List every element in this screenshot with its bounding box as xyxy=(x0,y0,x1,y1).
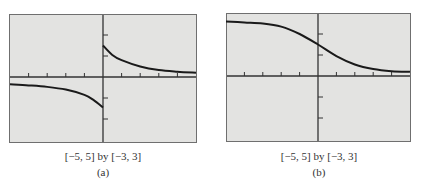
window-caption-b: [−5, 5] by [−3, 3] xyxy=(219,150,419,162)
panel-label-b: (b) xyxy=(219,166,419,178)
